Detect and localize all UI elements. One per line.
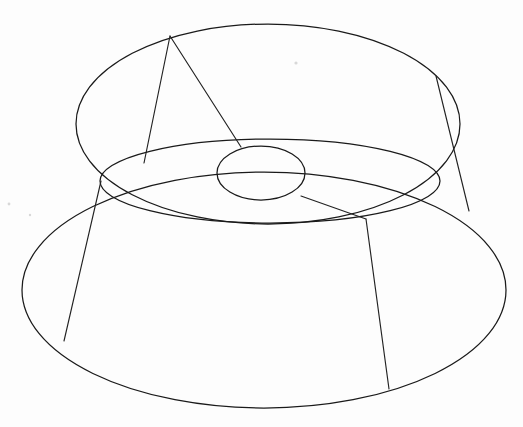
paper-speck-top-right: [294, 61, 297, 64]
drawing-canvas: [0, 0, 523, 427]
frustum-wireframe-figure: [0, 0, 523, 427]
paper-speck-mid-left: [29, 214, 31, 216]
paper-speck-left-edge: [8, 203, 11, 206]
paper-background: [0, 0, 523, 427]
